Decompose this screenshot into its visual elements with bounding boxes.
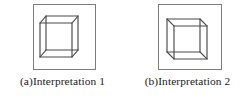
panel-b-frame xyxy=(159,5,222,70)
figure-panel-b: (b)Interpretation 2 xyxy=(125,0,250,103)
panel-a-drawing xyxy=(0,0,125,75)
panel-b-caption: (b)Interpretation 2 xyxy=(125,73,250,89)
panel-b-drawing xyxy=(125,0,250,75)
panel-a-frame xyxy=(34,5,96,70)
panel-a-caption: (a)Interpretation 1 xyxy=(0,73,125,89)
necker-cube-figure: (a)Interpretation 1 (b)Interpretation 2 xyxy=(0,0,250,103)
figure-panel-a: (a)Interpretation 1 xyxy=(0,0,125,103)
